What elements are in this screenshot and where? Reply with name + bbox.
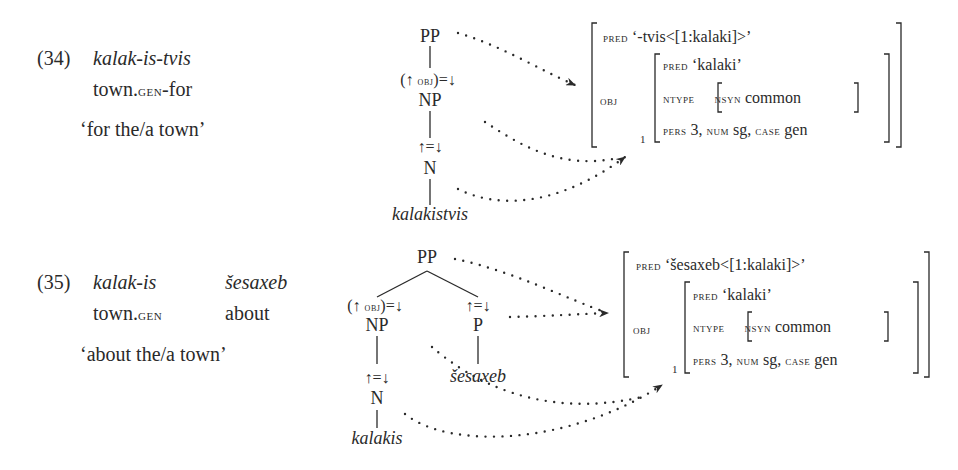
fs-obj-pred-row: pred ‘kalaki’ [693, 287, 772, 303]
fs-outer-left-bracket [624, 252, 629, 377]
fs-inner-left-bracket [655, 54, 660, 142]
example-form-2: šesaxeb [225, 272, 287, 292]
fs-ntype-right-bracket [884, 312, 888, 341]
fs-index: 1 [640, 133, 646, 145]
fs-outer-left-bracket [592, 23, 597, 147]
example-form: kalak-is-tvis [93, 48, 191, 68]
node-np: NP [418, 91, 441, 109]
fs-obj-pred-row: pred ‘kalaki’ [663, 57, 742, 73]
terminal-word: kalakis [352, 429, 403, 447]
gloss-word: town. [93, 78, 138, 100]
phi-arrow-n [405, 385, 662, 437]
fs-ntype-right-bracket [854, 83, 858, 112]
gloss-case: gen [138, 83, 162, 99]
example-gloss: town.gen-for [93, 79, 192, 99]
fs-value-pred: ‘-tvis<[1:kalaki]>’ [632, 28, 751, 45]
tree-branch [377, 271, 427, 297]
fs-pred-row: pred ‘-tvis<[1:kalaki]>’ [603, 29, 751, 45]
fs-inner-left-bracket [685, 282, 690, 373]
terminal-word: kalakistvis [392, 205, 468, 223]
example-translation: ‘for the/a town’ [80, 119, 206, 139]
phi-arrow-p [510, 313, 608, 317]
example-number: (34) [37, 48, 70, 68]
head-annotation: ↑=↓ [417, 139, 442, 155]
fs-attr-pred: pred [603, 30, 628, 45]
example-form: kalak-is [93, 272, 156, 292]
gloss-suffix: -for [162, 78, 192, 100]
node-np: NP [365, 316, 388, 334]
obj-annotation: (↑ obj)=↓ [400, 72, 455, 88]
fs-inner-right-bracket [884, 54, 889, 142]
node-n: N [424, 159, 437, 177]
phi-arrow-n [458, 157, 625, 201]
node-n: N [371, 389, 384, 407]
example-number: (35) [37, 272, 70, 292]
fs-attr-obj: obj [600, 92, 618, 108]
fs-obj-ntype-row: ntype nsyn common [693, 319, 831, 335]
p-terminal-word: šesaxeb [450, 367, 506, 385]
fs-outer-right-bracket [924, 252, 929, 377]
fs-attr-obj: obj [633, 321, 651, 337]
obj-annotation: (↑ obj)=↓ [347, 298, 402, 314]
node-pp: PP [420, 27, 440, 45]
fs-obj-agr-row: pers 3, num sg, case gen [693, 352, 837, 368]
fs-inner-right-bracket [913, 282, 918, 373]
example-translation: ‘about the/a town’ [80, 344, 227, 364]
tree-branch [427, 271, 478, 297]
phi-arrow-pp [458, 33, 575, 85]
p-annotation: ↑=↓ [465, 298, 490, 314]
fs-index: 1 [672, 363, 678, 375]
fs-outer-right-bracket [896, 23, 901, 147]
example-gloss: town.gen [93, 303, 162, 323]
head-annotation: ↑=↓ [364, 370, 389, 386]
diagram-lines [0, 0, 958, 470]
fs-pred-row: pred ‘šesaxeb<[1:kalaki]>’ [636, 257, 806, 273]
fs-obj-ntype-row: ntype nsyn common [663, 90, 801, 106]
example-gloss-2: about [225, 303, 269, 323]
phi-arrow-np [485, 122, 618, 161]
node-p: P [473, 316, 483, 334]
node-pp: PP [417, 248, 437, 266]
fs-obj-agr-row: pers 3, num sg, case gen [663, 122, 807, 138]
